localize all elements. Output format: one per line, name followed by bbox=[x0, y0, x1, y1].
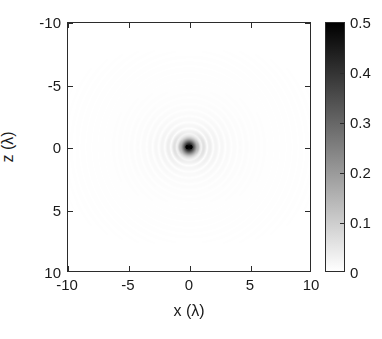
y-axis-tick bbox=[68, 86, 73, 87]
x-axis-tick-label: 10 bbox=[303, 277, 320, 292]
colorbar-tick-label: 0 bbox=[350, 265, 358, 280]
y-axis-tick bbox=[68, 148, 73, 149]
colorbar-tick-label: 0.1 bbox=[350, 215, 371, 230]
y-axis-title: z (λ) bbox=[0, 131, 17, 162]
colorbar-tick bbox=[340, 223, 344, 224]
x-axis-tick-label: -5 bbox=[121, 277, 134, 292]
x-axis-tick-label: 0 bbox=[185, 277, 193, 292]
colorbar-tick-label: 0.4 bbox=[350, 65, 371, 80]
colorbar bbox=[325, 22, 345, 272]
y-axis-tick-label: 0 bbox=[53, 140, 61, 155]
y-axis-tick-label: -5 bbox=[48, 77, 61, 92]
x-axis-tick bbox=[68, 266, 69, 271]
colorbar-tick bbox=[340, 123, 344, 124]
colorbar-tick bbox=[340, 173, 344, 174]
colorbar-tick-label: 0.2 bbox=[350, 165, 371, 180]
y-axis-tick bbox=[305, 148, 310, 149]
x-axis-tick bbox=[190, 23, 191, 28]
x-axis-tick bbox=[129, 266, 130, 271]
y-axis-tick-label: -10 bbox=[39, 15, 61, 30]
colorbar-tick-label: 0.3 bbox=[350, 115, 371, 130]
heatmap-axes bbox=[67, 22, 311, 272]
x-axis-tick bbox=[129, 23, 130, 28]
figure-container: -10-50510 -10-50510 x (λ) z (λ) 00.10.20… bbox=[0, 0, 382, 339]
heatmap-image bbox=[68, 23, 310, 271]
y-axis-tick-label: 5 bbox=[53, 202, 61, 217]
x-axis-tick-label: 5 bbox=[246, 277, 254, 292]
y-axis-tick bbox=[305, 211, 310, 212]
y-axis-tick-label: 10 bbox=[44, 265, 61, 280]
colorbar-tick bbox=[340, 73, 344, 74]
x-axis-tick bbox=[251, 23, 252, 28]
colorbar-tick-label: 0.5 bbox=[350, 15, 371, 30]
x-axis-title: x (λ) bbox=[67, 302, 311, 320]
x-axis-tick bbox=[190, 266, 191, 271]
y-axis-tick bbox=[68, 23, 73, 24]
y-axis-tick bbox=[305, 86, 310, 87]
x-axis-tick bbox=[251, 266, 252, 271]
y-axis-tick bbox=[68, 211, 73, 212]
y-axis-tick bbox=[305, 23, 310, 24]
